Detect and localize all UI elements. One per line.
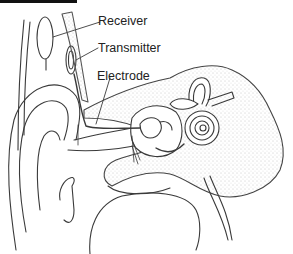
cochlea [185,111,219,145]
label-transmitter: Transmitter [98,41,161,55]
head-outline [18,20,30,150]
label-receiver: Receiver [98,14,147,28]
label-electrode: Electrode [97,69,150,83]
outer-ear [9,85,80,250]
ear-anatomy-illustration [0,0,293,254]
